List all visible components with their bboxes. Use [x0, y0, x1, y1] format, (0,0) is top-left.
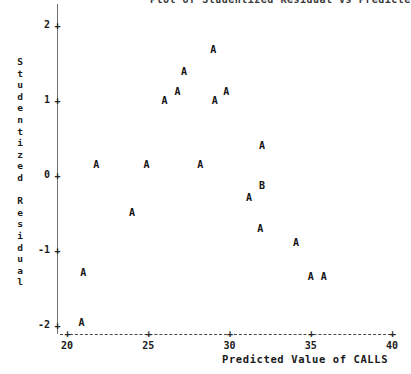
plot-area: +2+1+0+-1+-2 +20+25+30+35+40 AAAAAAAAAAA…	[0, 0, 411, 374]
y-axis-label-char: e	[14, 160, 26, 172]
y-axis-label-char: i	[14, 230, 26, 242]
y-axis-label: StudentizedResidual	[14, 56, 26, 288]
y-axis-label-char: z	[14, 149, 26, 161]
y-tick-label: 2	[28, 20, 50, 30]
data-point-marker: A	[173, 87, 183, 97]
y-axis-label-char: u	[14, 253, 26, 265]
y-axis-label-char: d	[14, 172, 26, 184]
data-point-marker: A	[208, 45, 218, 55]
y-axis-label-char: t	[14, 68, 26, 80]
y-tick-mark: +	[53, 21, 62, 30]
y-axis-label-char: t	[14, 126, 26, 138]
data-point-marker: A	[210, 96, 220, 106]
y-axis-label-char: u	[14, 79, 26, 91]
data-point-marker: A	[244, 193, 254, 203]
y-tick-label: 0	[28, 170, 50, 180]
data-point-marker: A	[291, 238, 301, 248]
scatter-plot-figure: Plot of Studentized Residual vs Predicte…	[0, 0, 411, 374]
data-point-marker: A	[195, 160, 205, 170]
data-point-marker: A	[221, 87, 231, 97]
data-point-marker: A	[179, 67, 189, 77]
x-tick-mark: +	[144, 329, 153, 339]
y-axis-label-char	[14, 184, 26, 196]
data-point-marker: A	[77, 318, 87, 328]
y-axis-label-char: l	[14, 276, 26, 288]
x-tick-mark: +	[63, 329, 72, 339]
data-point-marker: A	[255, 224, 265, 234]
data-point-marker: A	[127, 208, 137, 218]
y-axis-label-char: S	[14, 56, 26, 68]
data-point-marker: A	[142, 160, 152, 170]
y-axis-label-char: e	[14, 207, 26, 219]
y-axis-label-char: e	[14, 102, 26, 114]
x-tick-label: 40	[377, 340, 407, 351]
data-point-marker: A	[257, 141, 267, 151]
y-tick-label: -1	[28, 245, 50, 255]
x-tick-label: 30	[215, 340, 245, 351]
x-axis-label: Predicted Value of CALLS	[222, 353, 388, 365]
x-tick-label: 35	[296, 340, 326, 351]
y-tick-label: 1	[28, 95, 50, 105]
data-point-marker: A	[160, 96, 170, 106]
y-axis-label-char: n	[14, 114, 26, 126]
y-tick-mark: +	[53, 246, 62, 255]
data-point-marker: B	[257, 181, 267, 191]
y-axis-label-char: s	[14, 218, 26, 230]
x-tick-mark: +	[226, 329, 235, 339]
y-tick-mark: +	[53, 321, 62, 330]
y-axis-label-char: d	[14, 242, 26, 254]
y-axis-label-char: d	[14, 91, 26, 103]
x-tick-label: 20	[52, 340, 82, 351]
data-point-marker: A	[306, 272, 316, 282]
y-tick-mark: +	[53, 96, 62, 105]
data-point-marker: A	[78, 268, 88, 278]
x-tick-label: 25	[133, 340, 163, 351]
y-tick-mark: +	[53, 171, 62, 180]
y-tick-label: -2	[28, 320, 50, 330]
x-tick-mark: +	[388, 329, 397, 339]
data-point-marker: A	[91, 160, 101, 170]
y-axis-line	[57, 4, 58, 334]
x-tick-mark: +	[307, 329, 316, 339]
y-axis-label-char: i	[14, 137, 26, 149]
y-axis-label-char: R	[14, 195, 26, 207]
data-point-marker: A	[319, 272, 329, 282]
y-axis-label-char: a	[14, 265, 26, 277]
